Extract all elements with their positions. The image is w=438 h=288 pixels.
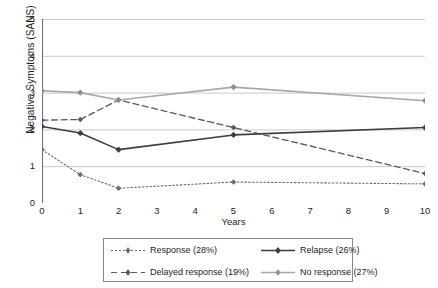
x-tick-label: 3 [145,206,169,216]
legend-swatch-no-response [261,267,295,278]
legend-swatch-delayed-response [111,267,145,278]
legend-label-response: Response (28%) [150,245,217,256]
x-tick-label: 5 [222,206,246,216]
x-tick-label: 4 [183,206,207,216]
legend-label-no-response: No response (27%) [300,267,378,278]
y-tick-label: 3 [15,88,35,98]
legend-swatch-response [111,245,145,256]
x-tick-label: 9 [375,206,399,216]
series-canvas [42,19,425,203]
y-tick-label: 2 [15,124,35,134]
legend-label-relapse: Relapse (26%) [300,245,360,256]
legend-label-delayed-response: Delayed response (19%) [150,267,249,278]
x-tick-label: 1 [68,206,92,216]
y-tick-label: 5 [15,14,35,24]
x-tick-label: 10 [413,206,437,216]
legend-item-response[interactable]: Response (28%) [104,245,254,256]
plot-area [42,19,425,203]
legend-item-no-response[interactable]: No response (27%) [254,267,354,278]
legend: Response (28%) Relapse (26%) Delayed res… [103,238,353,282]
x-tick-label: 0 [30,206,54,216]
legend-item-relapse[interactable]: Relapse (26%) [254,245,354,256]
chart-figure: Negative Symptoms (SANS) 012345 01234567… [0,0,438,288]
x-tick-label: 8 [336,206,360,216]
legend-item-delayed-response[interactable]: Delayed response (19%) [104,267,254,278]
legend-swatch-relapse [261,245,295,256]
y-tick-label: 4 [15,51,35,61]
x-axis-title: Years [42,216,425,227]
x-tick-label: 6 [260,206,284,216]
y-tick-label: 1 [15,161,35,171]
x-tick-label: 7 [298,206,322,216]
x-tick-label: 2 [107,206,131,216]
